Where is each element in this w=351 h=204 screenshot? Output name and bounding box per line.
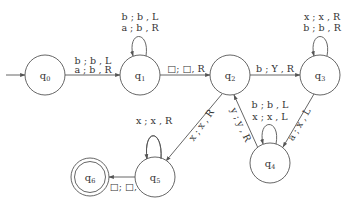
label-q1-loop-line2: a ; b , R (121, 22, 159, 33)
label-q4-loop-line1: b ; b , L (252, 99, 289, 110)
loop-q4 (262, 125, 277, 145)
label-q3-q4: a ; x , L (285, 105, 313, 142)
loop-q1 (132, 37, 146, 57)
label-q3-loop-line2: b ; b , R (303, 22, 341, 33)
label-q4-loop-line2: x ; x , L (252, 111, 288, 122)
label-q3-loop-line1: x ; x , R (304, 11, 341, 22)
label-q4-q2: y ; y , R (228, 105, 254, 144)
state-q5: q5 (135, 157, 175, 197)
loop-q5-arrowhead (146, 136, 161, 159)
label-q1-q2: □; □, R (167, 63, 205, 74)
state-q6-accepting: q6 (71, 158, 109, 196)
state-q4: q4 (250, 143, 290, 183)
label-q2-q3: b ; Y , R (256, 63, 295, 74)
loop-q3 (313, 37, 328, 57)
state-q3: q3 (300, 55, 340, 95)
state-diagram: b ; b , L a ; b , R b ; b , L a ; b , R … (0, 0, 351, 204)
label-q0-q1-line2: a ; b , R (74, 64, 112, 75)
state-q0: q0 (25, 55, 65, 95)
state-q1: q1 (120, 55, 160, 95)
label-q1-loop-line1: b ; b , L (122, 11, 159, 22)
label-q2-q5: x ; x , R (186, 106, 216, 143)
state-q2: q2 (210, 55, 250, 95)
label-q5-loop: x ; x , R (136, 115, 173, 126)
